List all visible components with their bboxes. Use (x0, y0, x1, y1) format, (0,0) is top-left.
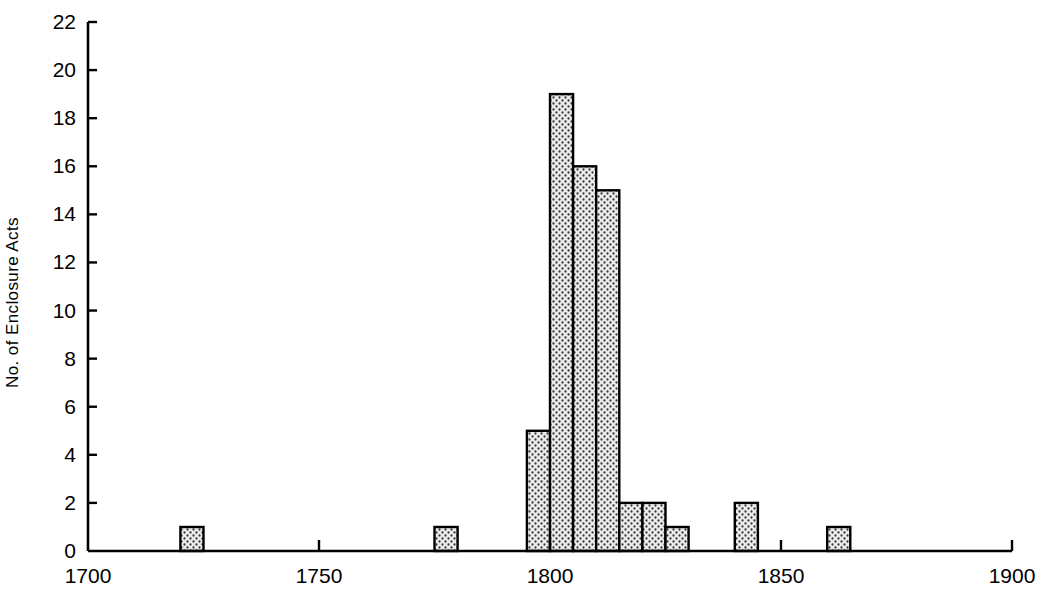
enclosure-acts-histogram: No. of Enclosure Acts 024681012141618202… (0, 0, 1052, 605)
plot-area (0, 0, 1052, 605)
y-tick-label: 2 (36, 492, 76, 513)
bar (573, 166, 596, 551)
bar (827, 527, 850, 551)
y-tick-label: 10 (36, 300, 76, 321)
bar (735, 503, 758, 551)
bar (642, 503, 665, 551)
bar (180, 527, 203, 551)
bar (550, 94, 573, 551)
bar (666, 527, 689, 551)
x-tick-label: 1850 (741, 565, 821, 586)
y-tick-label: 4 (36, 444, 76, 465)
y-tick-label: 8 (36, 348, 76, 369)
y-tick-label: 0 (36, 540, 76, 561)
y-tick-label: 16 (36, 155, 76, 176)
bar (435, 527, 458, 551)
bar-series (180, 94, 850, 551)
y-tick-label: 12 (36, 251, 76, 272)
bar (527, 431, 550, 551)
x-tick-label: 1800 (510, 565, 590, 586)
y-tick-label: 6 (36, 396, 76, 417)
bar (619, 503, 642, 551)
x-tick-label: 1750 (279, 565, 359, 586)
y-tick-label: 14 (36, 203, 76, 224)
y-tick-label: 20 (36, 59, 76, 80)
y-tick-label: 18 (36, 107, 76, 128)
x-tick-label: 1900 (972, 565, 1052, 586)
y-tick-label: 22 (36, 11, 76, 32)
bar (596, 190, 619, 551)
x-tick-label: 1700 (48, 565, 128, 586)
